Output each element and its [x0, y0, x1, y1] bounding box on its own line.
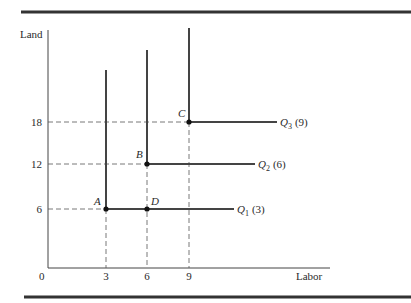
y-tick-12: 12 — [31, 158, 42, 170]
isoquant-q2 — [147, 50, 255, 164]
point-d — [144, 206, 149, 211]
point-a — [103, 206, 108, 211]
point-label-c: C — [178, 107, 186, 119]
y-tick-6: 6 — [37, 203, 43, 215]
x-tick-6: 6 — [144, 270, 150, 282]
y-tick-18: 18 — [31, 116, 43, 128]
isoquant-diagram: A D B C Q1(3) Q2(6) Q3(9) Land Labor 0 6… — [0, 0, 411, 303]
x-tick-9: 9 — [186, 270, 192, 282]
dashed-guides — [48, 122, 189, 268]
point-b — [144, 161, 149, 166]
y-axis-label: Land — [20, 28, 43, 40]
x-tick-3: 3 — [103, 270, 109, 282]
isoquant-q1 — [106, 70, 234, 209]
origin-label: 0 — [39, 270, 45, 282]
point-label-a: A — [93, 195, 101, 207]
point-label-b: B — [136, 148, 143, 160]
isoquant-label-q3: Q3(9) — [280, 116, 308, 131]
x-axis-label: Labor — [296, 270, 323, 282]
point-label-d: D — [150, 195, 159, 207]
isoquant-label-q1: Q1(3) — [237, 203, 265, 218]
point-c — [186, 119, 191, 124]
isoquant-q3 — [189, 28, 277, 122]
isoquant-label-q2: Q2(6) — [258, 158, 286, 173]
